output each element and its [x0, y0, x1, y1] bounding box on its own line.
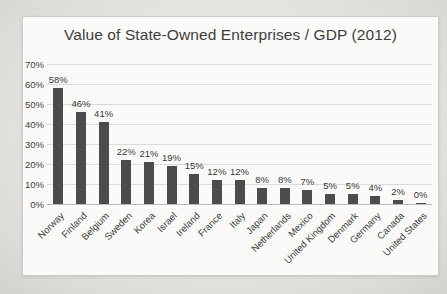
- y-tick-label: 50%: [23, 99, 44, 110]
- bar: [53, 88, 63, 204]
- x-axis-line: [47, 204, 432, 205]
- gridline: [47, 104, 432, 105]
- category-label: Korea: [138, 207, 161, 275]
- bar: [280, 188, 290, 204]
- y-tick-label: 30%: [23, 139, 44, 150]
- bar: [370, 196, 380, 204]
- y-tick-label: 40%: [23, 119, 44, 130]
- category-label: Belgium: [92, 207, 115, 275]
- bar: [76, 112, 86, 204]
- bar-chart: Value of State-Owned Enterprises / GDP (…: [22, 16, 439, 276]
- category-label: Italy: [228, 207, 251, 275]
- y-tick-label: 70%: [23, 59, 44, 70]
- bar-value-label: 0%: [404, 189, 438, 200]
- bar: [325, 194, 335, 204]
- gridline: [47, 64, 432, 65]
- category-label: Sweden: [115, 207, 138, 275]
- bar-value-label: 58%: [41, 74, 75, 85]
- bar: [416, 203, 426, 204]
- bar: [144, 162, 154, 204]
- bar: [257, 188, 267, 204]
- category-label-text: Norway: [36, 210, 67, 241]
- bar: [167, 166, 177, 204]
- category-label: Ireland: [183, 207, 206, 275]
- category-label: Finland: [70, 207, 93, 275]
- y-tick-label: 0%: [23, 199, 44, 210]
- plot-area: 0%10%20%30%40%50%60%70%58%Norway46%Finla…: [23, 17, 438, 275]
- bar: [189, 174, 199, 204]
- category-label: Israel: [160, 207, 183, 275]
- bar: [212, 180, 222, 204]
- bar: [121, 160, 131, 204]
- bar: [235, 180, 245, 204]
- category-label: United States: [409, 207, 432, 275]
- category-label: Germany: [364, 207, 387, 275]
- y-tick-label: 10%: [23, 179, 44, 190]
- bar-value-label: 41%: [87, 108, 121, 119]
- category-label: France: [206, 207, 229, 275]
- y-tick-label: 20%: [23, 159, 44, 170]
- gridline: [47, 84, 432, 85]
- bar: [348, 194, 358, 204]
- bar: [302, 190, 312, 204]
- category-label: Norway: [47, 207, 70, 275]
- bar: [393, 200, 403, 204]
- category-label: Netherlands: [273, 207, 296, 275]
- bar: [99, 122, 109, 204]
